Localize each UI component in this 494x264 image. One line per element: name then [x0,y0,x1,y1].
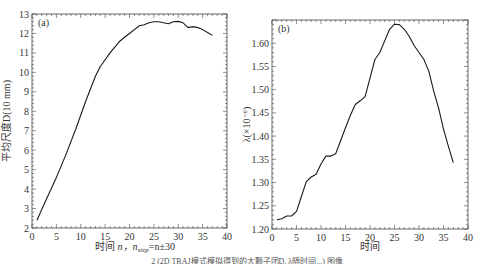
plot-frame [32,14,227,228]
y-tick-label: 1.20 [252,224,270,235]
figure-caption: 2 (2D TRAJ模式模拟得到的大颗子团D, λ随时间...) 图像 [0,255,494,264]
x-axis-label-a: 时间 n，nstep=n±30 [95,240,175,254]
x-tick-label: 0 [270,232,275,243]
x-tick-label: 30 [414,232,424,243]
x-tick-label: 5 [54,231,59,242]
y-tick-label: 1.40 [252,131,270,142]
x-tick-label: 40 [222,231,232,242]
y-tick-label: 10 [19,67,29,78]
y-tick-label: 6 [24,145,29,156]
y-tick-label: 12 [19,28,29,39]
x-tick-label: 35 [198,231,208,242]
y-axis-label: λ(×10⁻⁶) [241,107,253,143]
y-tick-label: 1.55 [252,61,270,72]
y-tick-label: 8 [24,106,29,117]
figure-canvas: 05101520253035402345678910111213(a)平均尺度D… [0,0,494,264]
y-tick-label: 13 [19,9,29,20]
y-tick-label: 1.45 [252,107,270,118]
y-tick-label: 11 [19,47,29,58]
panel-tag: (a) [38,17,49,29]
x-tick-label: 40 [463,232,473,243]
y-tick-label: 1.60 [252,38,270,49]
x-tick-label: 35 [439,232,449,243]
chart-panel-a: 05101520253035402345678910111213(a)平均尺度D… [0,9,232,243]
panel-tag: (b) [278,23,290,35]
chart-panel-b: 05101520253035401.201.251.301.351.401.45… [241,20,473,243]
x-axis-label-b: 时间 [360,240,380,252]
y-tick-label: 1.50 [252,84,270,95]
x-tick-label: 10 [316,232,326,243]
y-tick-label: 7 [24,125,29,136]
x-tick-label: 10 [76,231,86,242]
y-tick-label: 3 [24,203,29,214]
y-tick-label: 9 [24,86,29,97]
y-axis-label: 平均尺度D(10 mm) [0,80,13,162]
data-line [37,21,213,220]
y-tick-label: 1.25 [252,200,270,211]
x-tick-label: 25 [390,232,400,243]
y-tick-label: 2 [24,223,29,234]
y-tick-label: 4 [24,184,29,195]
y-tick-label: 5 [24,164,29,175]
y-tick-label: 1.35 [252,154,270,165]
x-tick-label: 5 [294,232,299,243]
data-line [277,24,453,220]
x-tick-label: 15 [341,232,351,243]
x-tick-label: 0 [30,231,35,242]
y-tick-label: 1.30 [252,177,270,188]
